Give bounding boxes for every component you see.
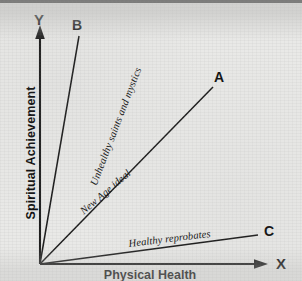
- ray-c-end-marker: C: [264, 224, 274, 238]
- y-axis-title: Spiritual Achievement: [24, 78, 38, 228]
- figure-canvas: Y X B A C Unhealthy saints and mystics N…: [0, 0, 302, 281]
- ray-a-end-marker: A: [214, 70, 224, 84]
- x-axis-title: Physical Health: [40, 268, 260, 281]
- x-axis-end-marker: X: [276, 256, 286, 271]
- y-axis-end-marker: Y: [34, 12, 44, 27]
- ray-b-end-marker: B: [72, 18, 82, 32]
